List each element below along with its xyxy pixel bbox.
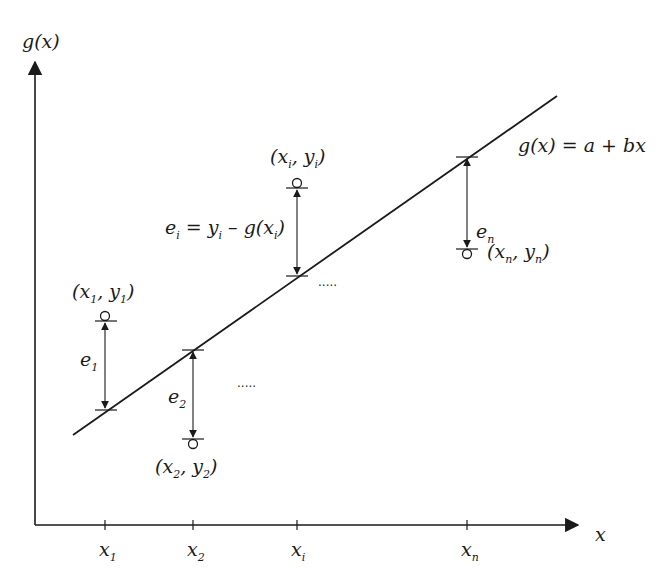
regression-equation: g(x) = a + bx <box>518 134 646 156</box>
svg-text:xi: xi <box>291 538 305 564</box>
residual-label-1: e1 <box>80 348 98 374</box>
point-label-2: (x2, y2) <box>155 455 217 481</box>
point-circle-icon <box>293 179 302 188</box>
x-tick-i: xi <box>291 520 305 564</box>
data-point-2: (x2, y2) e2 <box>155 350 217 481</box>
data-point-i: (xi, yi) ei = yi – g(xi) <box>165 145 325 276</box>
residual-formula: ei = yi – g(xi) <box>165 216 285 242</box>
y-axis-label: g(x) <box>22 30 60 52</box>
point-label-i: (xi, yi) <box>270 145 325 171</box>
data-point-1: (x1, y1) e1 <box>72 280 134 410</box>
regression-diagram: g(x) x x1 x2 xi xn g(x) = a + bx (x1, y1… <box>0 0 666 583</box>
svg-text:x1: x1 <box>99 538 117 564</box>
regression-line <box>73 96 557 435</box>
x-tick-n: xn <box>461 520 479 564</box>
point-circle-icon <box>189 440 198 449</box>
data-point-n: (xn, yn) en <box>456 157 550 266</box>
x-tick-1: x1 <box>99 520 117 564</box>
ellipsis-upper: ..... <box>318 275 337 289</box>
residual-label-n: en <box>476 220 494 246</box>
point-label-1: (x1, y1) <box>72 280 134 306</box>
svg-text:x2: x2 <box>187 538 205 564</box>
point-circle-icon <box>463 250 472 259</box>
point-label-n: (xn, yn) <box>487 240 550 266</box>
x-axis-label: x <box>595 523 606 545</box>
residual-label-2: e2 <box>168 385 186 411</box>
ellipsis-lower: ..... <box>237 376 256 390</box>
point-circle-icon <box>101 312 110 321</box>
svg-text:xn: xn <box>461 538 479 564</box>
x-tick-2: x2 <box>187 520 205 564</box>
